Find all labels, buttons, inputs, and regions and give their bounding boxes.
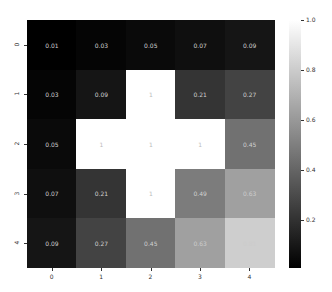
colorbar-tick-label: 0.2 (306, 216, 316, 223)
heatmap-cell: 0.09 (27, 218, 77, 268)
heatmap-cell: 1 (126, 169, 176, 219)
y-tick-mark (24, 144, 27, 145)
y-tick-mark (24, 194, 27, 195)
colorbar-tick-label: 0.8 (306, 66, 316, 73)
heatmap-cell: 1 (126, 119, 176, 169)
x-tick-label: 4 (244, 273, 254, 280)
heatmap-cell: 0.07 (175, 20, 225, 70)
heatmap-cell: 0.63 (175, 218, 225, 268)
colorbar-tick-mark (301, 20, 304, 21)
colorbar-tick-label: 0.6 (306, 116, 316, 123)
heatmap-cell: 1 (126, 70, 176, 120)
x-tick-mark (52, 268, 53, 271)
heatmap-cell: 0.03 (76, 20, 126, 70)
heatmap-cell: 0.09 (76, 70, 126, 120)
colorbar-tick-mark (301, 170, 304, 171)
heatmap-chart: 0.010.030.050.070.090.030.0910.210.270.0… (0, 0, 332, 292)
colorbar-tick-mark (301, 120, 304, 121)
heatmap-cell: 0.49 (175, 169, 225, 219)
x-tick-label: 3 (195, 273, 205, 280)
y-tick-label: 3 (13, 188, 20, 198)
heatmap-cell: 0.81 (225, 218, 275, 268)
heatmap-cell: 1 (76, 119, 126, 169)
heatmap-cell: 0.27 (76, 218, 126, 268)
heatmap-cell: 0.45 (225, 119, 275, 169)
colorbar-tick-label: 1.0 (306, 16, 316, 23)
x-tick-label: 1 (96, 273, 106, 280)
heatmap-cell: 0.09 (225, 20, 275, 70)
colorbar-tick-mark (301, 220, 304, 221)
y-tick-mark (24, 243, 27, 244)
colorbar-tick-mark (301, 70, 304, 71)
x-tick-label: 2 (146, 273, 156, 280)
heatmap-cell: 0.05 (27, 119, 77, 169)
heatmap-cell: 0.63 (225, 169, 275, 219)
heatmap-cell: 0.03 (27, 70, 77, 120)
y-tick-label: 2 (13, 139, 20, 149)
y-tick-mark (24, 45, 27, 46)
heatmap-cell: 0.21 (76, 169, 126, 219)
x-tick-mark (249, 268, 250, 271)
heatmap-cell: 0.05 (126, 20, 176, 70)
heatmap-cell: 0.21 (175, 70, 225, 120)
colorbar (289, 20, 301, 268)
x-tick-mark (151, 268, 152, 271)
heatmap-cell: 0.01 (27, 20, 77, 70)
heatmap-cell: 1 (175, 119, 225, 169)
y-tick-mark (24, 94, 27, 95)
heatmap-cell: 0.45 (126, 218, 176, 268)
heatmap-cell: 0.27 (225, 70, 275, 120)
heatmap-cell: 0.07 (27, 169, 77, 219)
x-tick-mark (200, 268, 201, 271)
x-tick-label: 0 (47, 273, 57, 280)
y-tick-label: 0 (13, 39, 20, 49)
colorbar-tick-label: 0.4 (306, 166, 316, 173)
y-tick-label: 4 (13, 238, 20, 248)
x-tick-mark (101, 268, 102, 271)
y-tick-label: 1 (13, 89, 20, 99)
